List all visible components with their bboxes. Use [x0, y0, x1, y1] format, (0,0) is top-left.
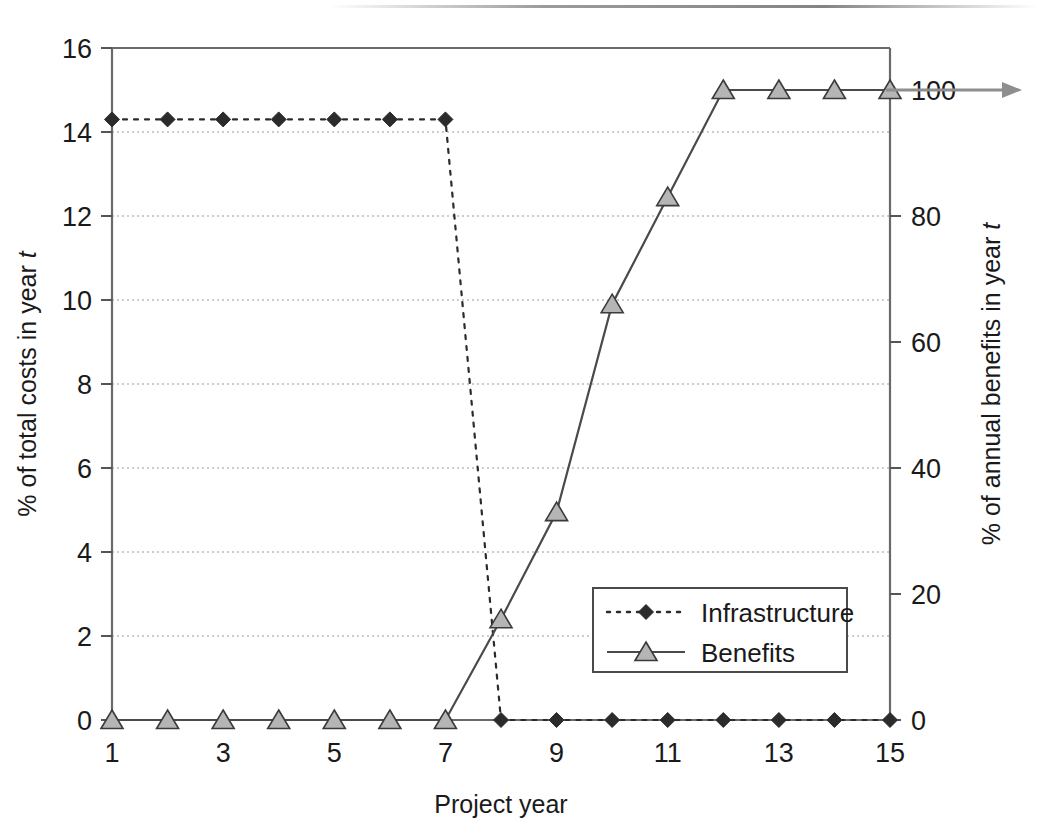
x-ticklabel-13: 13 [764, 738, 794, 768]
data-point-infrastructure-year-2 [160, 112, 175, 127]
y-left-ticklabel-0: 0 [77, 706, 92, 736]
y-right-ticklabel-40: 40 [911, 454, 941, 484]
x-ticklabel-3: 3 [216, 738, 231, 768]
data-point-infrastructure-year-14 [827, 713, 842, 728]
y-left-ticklabel-10: 10 [62, 286, 92, 316]
y-right-ticklabel-60: 60 [911, 328, 941, 358]
figure-panel: 024681012141602040608010013579111315% of… [0, 0, 1037, 826]
y-left-ticklabel-16: 16 [62, 34, 92, 64]
data-point-benefits-year-11 [657, 187, 679, 206]
y-right-ticklabel-80: 80 [911, 202, 941, 232]
x-ticklabel-1: 1 [104, 738, 119, 768]
y-left-ticklabel-6: 6 [77, 454, 92, 484]
y-axis-left-title: % of total costs in year t [13, 250, 41, 516]
x-ticklabel-9: 9 [549, 738, 564, 768]
y-left-ticklabel-2: 2 [77, 622, 92, 652]
y-left-ticklabel-8: 8 [77, 370, 92, 400]
line-chart: 024681012141602040608010013579111315% of… [0, 0, 1037, 826]
x-ticklabel-15: 15 [875, 738, 905, 768]
y-axis-right-title: % of annual benefits in year t [977, 222, 1005, 545]
y-right-ticklabel-20: 20 [911, 580, 941, 610]
data-point-infrastructure-year-7 [438, 112, 453, 127]
y-right-ticklabel-0: 0 [911, 706, 926, 736]
data-point-infrastructure-year-12 [716, 713, 731, 728]
data-point-benefits-year-10 [601, 294, 623, 313]
data-point-infrastructure-year-6 [382, 112, 397, 127]
y-left-ticklabel-14: 14 [62, 118, 92, 148]
data-point-infrastructure-year-10 [605, 713, 620, 728]
data-point-infrastructure-year-8 [494, 713, 509, 728]
legend-label-infrastructure: Infrastructure [701, 598, 854, 628]
data-point-benefits-year-9 [546, 502, 568, 521]
data-point-infrastructure-year-3 [216, 112, 231, 127]
data-point-infrastructure-year-4 [271, 112, 286, 127]
data-point-infrastructure-year-9 [549, 713, 564, 728]
data-point-infrastructure-year-11 [660, 713, 675, 728]
x-ticklabel-11: 11 [654, 738, 682, 768]
x-ticklabel-7: 7 [438, 738, 453, 768]
data-point-infrastructure-year-15 [883, 713, 898, 728]
continuation-arrow-head [1002, 82, 1022, 98]
scan-artifact-line [330, 5, 1037, 8]
legend-label-benefits: Benefits [701, 638, 795, 668]
data-point-infrastructure-year-13 [771, 713, 786, 728]
y-left-ticklabel-12: 12 [62, 202, 92, 232]
data-point-infrastructure-year-1 [105, 112, 120, 127]
data-point-infrastructure-year-5 [327, 112, 342, 127]
data-point-benefits-year-8 [490, 609, 512, 628]
y-left-ticklabel-4: 4 [77, 538, 92, 568]
x-axis-title: Project year [434, 790, 567, 818]
x-ticklabel-5: 5 [327, 738, 342, 768]
